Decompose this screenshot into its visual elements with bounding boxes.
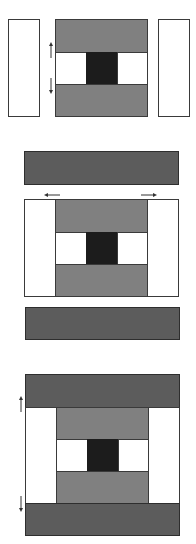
left-white-strip [24, 199, 56, 297]
left-white-square [56, 439, 88, 472]
joined-unit [24, 199, 179, 297]
bottom-dark-strip [25, 503, 180, 536]
bottom-gray-strip [55, 264, 148, 297]
bottom-gray-strip [56, 471, 149, 504]
center-unit [55, 19, 148, 117]
completed-block [25, 374, 180, 536]
arrow-right-icon [141, 192, 157, 198]
top-dark-strip [25, 374, 180, 408]
center-dark-square [86, 52, 118, 85]
left-white-strip [25, 407, 57, 504]
bottom-gray-strip [55, 84, 148, 117]
top-gray-strip [55, 19, 148, 53]
left-white-strip [8, 19, 40, 117]
left-white-square [55, 232, 87, 265]
arrow-down-icon [18, 496, 24, 512]
left-white-square [55, 52, 87, 85]
right-white-strip [158, 19, 190, 117]
top-dark-strip [24, 151, 179, 185]
arrow-up-icon [18, 396, 24, 412]
right-white-strip [147, 199, 179, 297]
bottom-dark-strip [25, 307, 180, 340]
center-dark-square [86, 232, 118, 265]
right-white-square [117, 52, 148, 85]
right-white-strip [148, 407, 180, 504]
arrow-down-icon [48, 78, 54, 94]
arrow-up-icon [48, 42, 54, 58]
top-gray-strip [55, 199, 148, 233]
center-dark-square [87, 439, 119, 472]
top-gray-strip [56, 407, 149, 440]
right-white-square [117, 232, 148, 265]
right-white-square [118, 439, 149, 472]
arrow-left-icon [44, 192, 60, 198]
